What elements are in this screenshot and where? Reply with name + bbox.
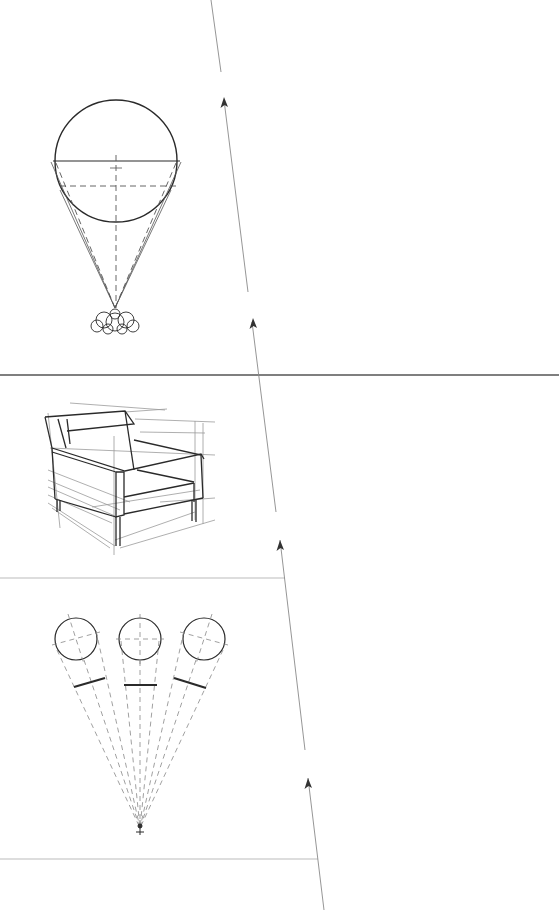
station-point-icon xyxy=(136,824,144,835)
diagram-canvas xyxy=(0,0,559,913)
figure-sphere-cone-of-vision xyxy=(51,100,181,334)
projection-bar-right xyxy=(174,678,206,688)
construction-lines xyxy=(48,403,215,555)
cone-line-right-outer xyxy=(115,162,181,308)
section-dividers xyxy=(0,375,559,859)
cone-line-left-dashed xyxy=(56,163,115,308)
sphere-right xyxy=(183,618,225,660)
arrowhead-icon xyxy=(250,318,258,329)
direction-line-segment xyxy=(224,100,248,292)
figure-three-spheres-projection xyxy=(52,614,228,835)
direction-line-segment xyxy=(280,540,305,750)
projection-bar-left xyxy=(74,678,105,687)
direction-arrow-line xyxy=(211,0,324,910)
direction-line-segment xyxy=(211,0,221,72)
figure-armchair-perspective xyxy=(45,403,215,555)
direction-line-segment xyxy=(308,778,324,910)
direction-line-segment xyxy=(252,322,276,512)
cone-line-left-tangent xyxy=(60,190,115,308)
cone-line-right-tangent xyxy=(115,190,171,308)
armchair-left-back-post xyxy=(45,417,52,448)
cone-line-left-outer xyxy=(51,162,115,308)
observer-head-icon xyxy=(91,309,139,334)
arrowhead-icon xyxy=(221,97,229,108)
sphere-left xyxy=(55,618,97,660)
arrowhead-icon xyxy=(305,778,313,789)
sphere-crosshairs xyxy=(52,614,228,664)
arrowhead-icon xyxy=(277,540,285,551)
cone-line-right-dashed xyxy=(115,163,176,308)
